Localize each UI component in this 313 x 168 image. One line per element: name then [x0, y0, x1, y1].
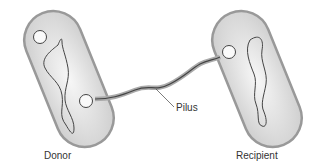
- recipient-cell: [204, 2, 311, 155]
- pilus: [95, 57, 220, 107]
- pilus-leader-line: [156, 89, 174, 107]
- recipient-label: Recipient: [236, 150, 278, 161]
- donor-label: Donor: [44, 150, 71, 161]
- plasmid-donor-1: [34, 31, 47, 44]
- plasmid-recipient: [223, 46, 236, 59]
- donor-cell: [16, 2, 123, 155]
- conjugation-diagram: [0, 0, 313, 168]
- pilus-label: Pilus: [176, 102, 198, 113]
- plasmid-donor-2: [80, 95, 93, 108]
